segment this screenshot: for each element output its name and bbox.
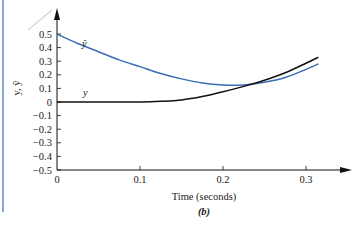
x-axis-title: Time (seconds) (172, 191, 237, 203)
x-tick-label: 0.1 (133, 174, 146, 185)
y-tick-label: −0.3 (33, 137, 52, 148)
x-tick-label: 0 (54, 174, 59, 185)
y-tick-label: −0.5 (33, 165, 52, 176)
curve-label-yhat: ŷ (81, 38, 87, 49)
line-chart: 0.50.40.30.20.10−0.1−0.2−0.3−0.4−0.500.1… (0, 0, 363, 225)
y-tick-label: 0.4 (39, 42, 53, 53)
y-axis-title: y, ŷ (11, 80, 22, 96)
y-tick-label: 0.1 (39, 83, 52, 94)
y-axis-arrow-icon (54, 8, 60, 20)
x-axis-arrow-icon (340, 167, 352, 173)
y-tick-label: 0.3 (39, 56, 52, 67)
y-tick-label: 0.5 (39, 29, 52, 40)
x-tick-label: 0.2 (216, 174, 229, 185)
curve-label-y: y (82, 87, 88, 98)
y-tick-label: −0.1 (33, 110, 52, 121)
y-tick-label: −0.2 (33, 124, 52, 135)
series-line-yhat (57, 34, 318, 85)
x-tick-label: 0.3 (299, 174, 312, 185)
figure-caption: (b) (198, 206, 210, 218)
decorative-diagonal-line (28, 10, 52, 30)
axes: 0.50.40.30.20.10−0.1−0.2−0.3−0.4−0.500.1… (33, 8, 352, 185)
y-tick-label: 0.2 (39, 69, 52, 80)
curves (57, 34, 318, 102)
y-tick-label: −0.4 (33, 151, 53, 162)
y-tick-label: 0 (47, 97, 52, 108)
